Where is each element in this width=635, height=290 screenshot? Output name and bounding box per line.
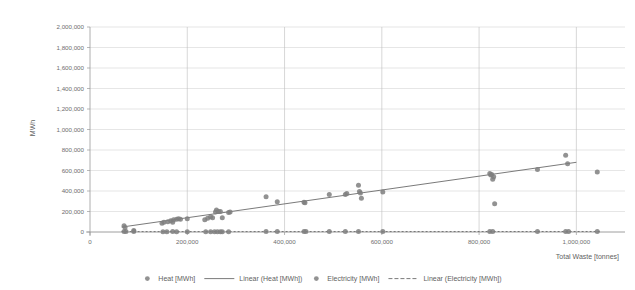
chart-legend: Heat [MWh]Linear (Heat [MWh])Electricity… (145, 275, 502, 283)
data-point (203, 229, 208, 234)
data-point (327, 192, 332, 197)
heat-data-points (122, 153, 600, 233)
y-tick-label: 1,600,000 (56, 64, 84, 71)
data-point (535, 229, 540, 234)
data-point (264, 229, 269, 234)
axis-lines (86, 27, 625, 236)
legend-marker-icon (314, 276, 319, 281)
chart-canvas: 0200,000400,000600,000800,0001,000,0001,… (0, 0, 635, 290)
x-axis-title: Total Waste [tonnes] (556, 253, 619, 261)
x-tick-label: 200,000 (176, 238, 199, 245)
legend-item-label[interactable]: Linear (Heat [MWh]) (239, 275, 302, 283)
data-point (226, 229, 231, 234)
y-tick-label: 400,000 (62, 187, 85, 194)
y-tick-labels: 0200,000400,000600,000800,0001,000,0001,… (56, 23, 84, 235)
data-point (327, 229, 332, 234)
data-point (123, 229, 128, 234)
data-point (356, 183, 361, 188)
data-point (303, 229, 308, 234)
data-point (210, 215, 215, 220)
data-point (565, 161, 570, 166)
data-point (535, 167, 540, 172)
x-tick-label: 400,000 (273, 238, 296, 245)
data-point (380, 190, 385, 195)
x-tick-labels: 0200,000400,000600,000800,0001,000,000 (88, 238, 590, 245)
legend-marker-icon (145, 276, 150, 281)
data-point (131, 229, 136, 234)
data-point (595, 229, 600, 234)
y-axis-title: MWh (29, 120, 36, 136)
data-point (595, 170, 600, 175)
data-point (228, 210, 233, 215)
data-point (344, 191, 349, 196)
x-tick-label: 600,000 (371, 238, 394, 245)
data-point (490, 229, 495, 234)
y-tick-label: 1,200,000 (56, 105, 84, 112)
y-tick-label: 800,000 (62, 146, 85, 153)
data-point (275, 199, 280, 204)
data-point (264, 194, 269, 199)
y-gridlines (90, 27, 625, 232)
data-point (164, 229, 169, 234)
data-point (491, 174, 496, 179)
data-point (492, 201, 497, 206)
data-point (563, 153, 568, 158)
legend-item-label[interactable]: Electricity [MWh] (327, 275, 379, 283)
data-point (380, 229, 385, 234)
data-point (218, 209, 223, 214)
y-tick-label: 600,000 (62, 167, 85, 174)
legend-item-label[interactable]: Heat [MWh] (158, 275, 195, 283)
data-point (343, 229, 348, 234)
scatter-chart: 0200,000400,000600,000800,0001,000,0001,… (0, 0, 635, 290)
y-tick-label: 200,000 (62, 208, 85, 215)
data-point (220, 229, 225, 234)
data-point (359, 196, 364, 201)
data-point (185, 229, 190, 234)
x-tick-label: 1,000,000 (563, 238, 591, 245)
data-point (356, 229, 361, 234)
data-point (275, 229, 280, 234)
x-tick-label: 800,000 (468, 238, 491, 245)
legend-item-label[interactable]: Linear (Electricity [MWh]) (423, 275, 501, 283)
x-tick-label: 0 (88, 238, 92, 245)
y-tick-label: 2,000,000 (56, 23, 84, 30)
data-point (220, 215, 225, 220)
data-point (185, 216, 190, 221)
y-tick-label: 1,400,000 (56, 85, 84, 92)
data-point (566, 229, 571, 234)
y-tick-label: 0 (81, 228, 85, 235)
y-tick-label: 1,000,000 (56, 126, 84, 133)
electricity-data-points (122, 229, 600, 234)
data-point (358, 191, 363, 196)
y-tick-label: 1,800,000 (56, 44, 84, 51)
data-point (174, 229, 179, 234)
data-point (178, 217, 183, 222)
data-point (302, 200, 307, 205)
